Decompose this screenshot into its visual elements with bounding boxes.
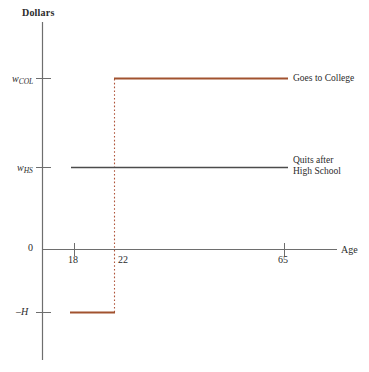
whs-base: w: [17, 162, 24, 173]
x-axis-title: Age: [341, 244, 358, 255]
y-tick-label-wcol: wCOL: [12, 73, 33, 84]
y-tick-label-zero: 0: [28, 242, 33, 253]
y-tick-label-negative-h: –H: [16, 306, 28, 317]
whs-subscript: HS: [24, 166, 33, 175]
y-axis-title: Dollars: [22, 7, 55, 18]
wcol-subscript: COL: [19, 77, 34, 86]
x-tick-label-18: 18: [68, 254, 78, 265]
x-tick-label-65: 65: [278, 254, 288, 265]
series-label-quits-after-high-school-line1: Quits after: [293, 155, 333, 166]
series-label-goes-to-college: Goes to College: [293, 73, 354, 84]
x-tick-label-22: 22: [118, 254, 128, 265]
education-wage-profile-chart: Dollars Age 0 wCOL wHS –H 18 22 65 Goes …: [0, 0, 369, 372]
y-tick-label-whs: wHS: [17, 162, 33, 173]
series-label-quits-after-high-school-line2: High School: [293, 166, 341, 177]
chart-plot-area: [0, 0, 369, 372]
wcol-base: w: [12, 73, 19, 84]
